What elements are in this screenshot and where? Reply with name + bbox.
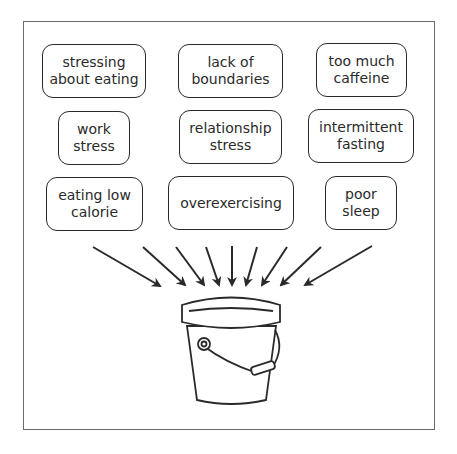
arrow-6 bbox=[246, 247, 257, 285]
arrows bbox=[93, 246, 372, 286]
arrow-4 bbox=[206, 247, 219, 285]
arrow-7 bbox=[262, 247, 287, 285]
arrows-and-bucket bbox=[0, 0, 457, 454]
arrow-3 bbox=[176, 247, 204, 285]
bucket-icon bbox=[182, 298, 280, 405]
